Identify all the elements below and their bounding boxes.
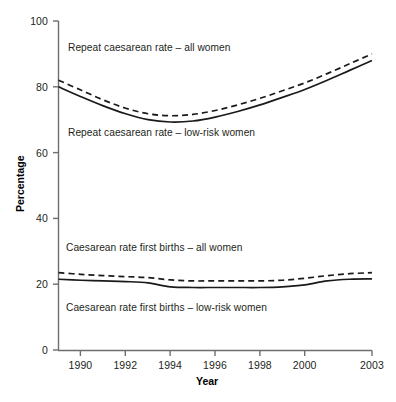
series-line-first-births-all-women [59,273,373,281]
y-axis-title: Percentage [14,155,26,212]
x-tick-label-1992: 1992 [100,359,150,371]
plot-area [0,0,396,402]
series-line-first-births-low-risk-women [59,279,373,288]
caesarean-rate-line-chart: 100 80 60 40 20 0 1990 1992 1994 1996 19… [0,0,396,402]
x-tick-label-1998: 1998 [235,359,285,371]
x-tick-label-2000: 2000 [280,359,330,371]
series-annotation-first-births-low-risk-women: Caesarean rate first births – low-risk w… [66,302,267,313]
y-tick-label-0: 0 [10,344,48,356]
x-axis-title: Year [196,375,218,387]
y-tick-label-100: 100 [10,15,48,27]
series-annotation-repeat-low-risk-women: Repeat caesarean rate – low-risk women [68,127,255,138]
x-tick-label-1990: 1990 [55,359,105,371]
series-annotation-repeat-all-women: Repeat caesarean rate – all women [68,42,230,53]
y-tick-label-20: 20 [10,278,48,290]
series-annotation-first-births-all-women: Caesarean rate first births – all women [66,242,242,253]
y-axis-ticks [53,21,59,350]
x-tick-label-2003: 2003 [347,359,396,371]
x-axis-ticks [80,351,372,357]
y-tick-label-40: 40 [10,212,48,224]
series-line-repeat-low-risk-women [59,60,373,122]
y-tick-label-80: 80 [10,81,48,93]
x-tick-label-1994: 1994 [145,359,195,371]
x-tick-label-1996: 1996 [190,359,240,371]
